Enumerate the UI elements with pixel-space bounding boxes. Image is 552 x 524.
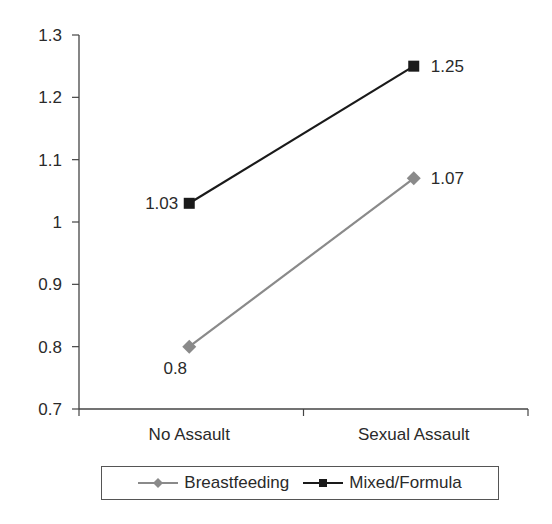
y-tick-label: 0.7	[38, 400, 62, 419]
legend-item-mixed-formula: Mixed/Formula	[303, 473, 461, 493]
axes: 0.70.80.911.11.21.3No AssaultSexual Assa…	[38, 26, 528, 444]
data-label: 1.03	[145, 194, 178, 213]
line-chart: 0.70.80.911.11.21.3No AssaultSexual Assa…	[0, 0, 552, 524]
legend: Breastfeeding Mixed/Formula	[101, 466, 499, 500]
square-marker-icon	[408, 61, 419, 72]
square-marker-icon	[303, 476, 343, 490]
y-tick-label: 1.1	[38, 151, 62, 170]
x-tick-label: Sexual Assault	[358, 425, 470, 444]
data-label: 0.8	[163, 359, 187, 378]
y-tick-label: 1.3	[38, 26, 62, 45]
series-layer: 0.81.071.031.25	[145, 57, 464, 378]
y-tick-label: 1.2	[38, 88, 62, 107]
y-tick-label: 0.8	[38, 338, 62, 357]
legend-item-breastfeeding: Breastfeeding	[138, 473, 289, 493]
y-tick-label: 1	[53, 213, 62, 232]
y-tick-label: 0.9	[38, 275, 62, 294]
diamond-marker-icon	[138, 476, 178, 490]
legend-label: Breastfeeding	[184, 473, 289, 493]
x-tick-label: No Assault	[149, 425, 231, 444]
square-marker-icon	[184, 198, 195, 209]
legend-label: Mixed/Formula	[349, 473, 461, 493]
series-line-breastfeeding	[189, 178, 414, 346]
series-line-mixed-formula	[189, 66, 414, 203]
data-label: 1.07	[431, 169, 464, 188]
data-label: 1.25	[431, 57, 464, 76]
